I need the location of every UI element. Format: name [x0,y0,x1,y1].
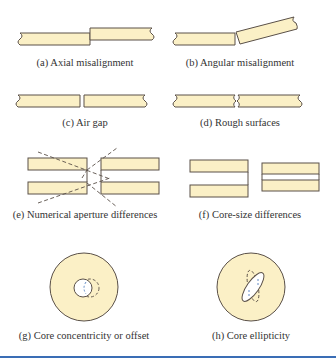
caption-angular-misalignment: (b) Angular misalignment [175,57,305,68]
rough-surfaces-drawing [173,95,302,107]
core-ellipticity-drawing [217,253,285,321]
air-gap-drawing [16,95,147,107]
caption-air-gap: (c) Air gap [20,117,150,128]
numerical-aperture-drawing [28,148,159,207]
caption-axial-misalignment: (a) Axial misalignment [20,57,150,68]
axial-misalignment-drawing [18,28,154,45]
angular-misalignment-drawing [173,17,297,45]
bottom-rule [0,356,336,358]
caption-core-size-differences: (f) Core-size differences [185,209,315,220]
caption-numerical-aperture-differences: (e) Numerical aperture differences [0,209,170,220]
fiber-loss-mechanisms-diagram [0,0,336,363]
core-size-differences-drawing [190,160,319,197]
caption-core-ellipticity: (h) Core ellipticity [186,330,316,341]
core-concentricity-drawing [50,253,118,321]
caption-core-concentricity: (g) Core concentricity or offset [4,330,164,341]
caption-rough-surfaces: (d) Rough surfaces [175,117,305,128]
